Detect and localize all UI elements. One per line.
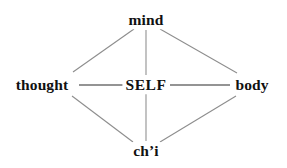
edge-thought-mind	[73, 29, 134, 72]
node-mind: mind	[126, 11, 167, 29]
edge-mind-body	[160, 29, 237, 73]
node-thought: thought	[13, 76, 71, 94]
self-diagram: mind thought SELF body ch’i	[0, 0, 287, 168]
node-body: body	[232, 76, 271, 94]
edge-thought-chi	[72, 96, 133, 142]
node-chi: ch’i	[130, 142, 161, 160]
node-self: SELF	[122, 76, 169, 94]
edge-chi-body	[160, 96, 236, 142]
